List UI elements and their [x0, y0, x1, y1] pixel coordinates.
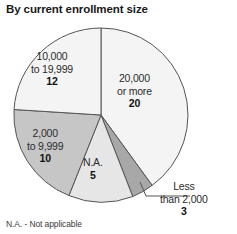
pie-label-10000-to-19999: 10,000 to 19,999 12	[31, 50, 73, 88]
pie-label-value: 12	[31, 75, 73, 88]
pie-label-value: 10	[27, 152, 63, 165]
pie-chart-figure: By current enrollment size 20,000 or mor…	[0, 0, 237, 234]
pie-label-line2: than 2,000	[160, 193, 208, 206]
pie-label-line2: or more	[117, 85, 152, 98]
pie-label-value: 20	[117, 97, 152, 110]
pie-label-line2: to 19,999	[31, 63, 73, 76]
pie-label-value: 5	[83, 169, 103, 182]
pie-label-line1: 20,000	[117, 72, 152, 85]
pie-label-line1: 2,000	[27, 127, 63, 140]
pie-label-line1: 10,000	[31, 50, 73, 63]
pie-label-line2: to 9,999	[27, 140, 63, 153]
pie-label-20000-or-more: 20,000 or more 20	[117, 72, 152, 110]
pie-label-2000-to-9999: 2,000 to 9,999 10	[27, 127, 63, 165]
pie-label-line1: N.A.	[83, 156, 103, 169]
pie-label-value: 3	[160, 205, 208, 218]
pie-label-line1: Less	[160, 180, 208, 193]
pie-label-less-than-2000: Less than 2,000 3	[160, 180, 208, 218]
pie-label-na: N.A. 5	[83, 156, 103, 181]
chart-footnote: N.A. - Not applicable	[6, 219, 82, 229]
